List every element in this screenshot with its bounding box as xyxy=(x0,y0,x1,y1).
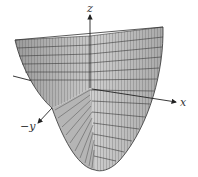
paraboloid-figure: z x −y xyxy=(0,0,198,177)
y-axis xyxy=(38,108,52,123)
z-axis-label: z xyxy=(86,2,93,15)
y-axis-label: −y xyxy=(20,120,36,133)
x-axis-label: x xyxy=(180,96,187,109)
